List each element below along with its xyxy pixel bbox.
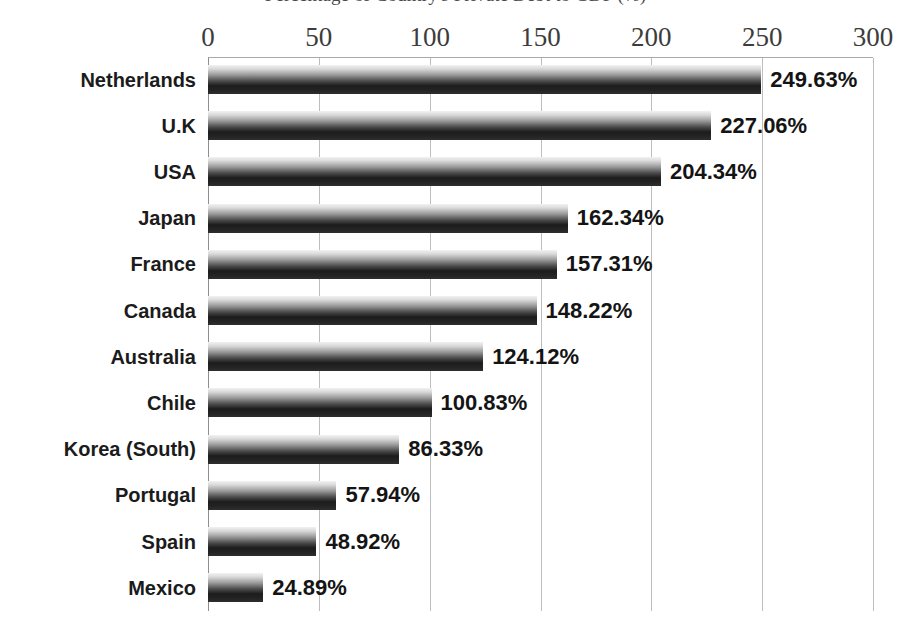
bar-row: 157.31% (208, 250, 873, 279)
bar-value-label: 48.92% (325, 530, 400, 554)
x-tick-label: 200 (631, 22, 672, 52)
x-tick-label: 250 (742, 22, 783, 52)
bar-row: 24.89% (208, 573, 873, 602)
bar-value-label: 57.94% (345, 483, 420, 507)
bar-netherlands (208, 65, 761, 94)
bar-row: 204.34% (208, 157, 873, 186)
bar-u-k (208, 111, 711, 140)
category-label-canada: Canada (0, 300, 196, 322)
category-label-mexico: Mexico (0, 577, 196, 599)
bar-chile (208, 388, 432, 417)
x-tick-label: 100 (409, 22, 450, 52)
bar-value-label: 227.06% (720, 114, 807, 138)
bar-row: 57.94% (208, 481, 873, 510)
bar-france (208, 250, 557, 279)
x-axis-tick-labels: 050100150200250300 (0, 22, 911, 54)
bar-usa (208, 157, 661, 186)
bar-japan (208, 204, 568, 233)
bar-portugal (208, 481, 336, 510)
bar-row: 48.92% (208, 527, 873, 556)
chart-title: Percentage of Country's Private Debt to … (0, 0, 911, 6)
category-label-australia: Australia (0, 346, 196, 368)
category-label-chile: Chile (0, 392, 196, 414)
bar-row: 86.33% (208, 435, 873, 464)
category-label-portugal: Portugal (0, 484, 196, 506)
bar-spain (208, 527, 316, 556)
bar-row: 227.06% (208, 111, 873, 140)
bar-row: 162.34% (208, 204, 873, 233)
bar-row: 124.12% (208, 342, 873, 371)
category-label-korea-south: Korea (South) (0, 438, 196, 460)
category-label-france: France (0, 253, 196, 275)
bar-canada (208, 296, 537, 325)
x-tick-label: 50 (305, 22, 332, 52)
category-label-spain: Spain (0, 531, 196, 553)
category-label-u-k: U.K (0, 115, 196, 137)
bar-value-label: 162.34% (577, 206, 664, 230)
category-label-netherlands: Netherlands (0, 69, 196, 91)
bar-value-label: 86.33% (408, 437, 483, 461)
x-tick-label: 150 (520, 22, 561, 52)
category-label-japan: Japan (0, 207, 196, 229)
bar-korea-south (208, 435, 399, 464)
bar-value-label: 249.63% (770, 68, 857, 92)
bar-value-label: 204.34% (670, 160, 757, 184)
bars-layer: 249.63%227.06%204.34%162.34%157.31%148.2… (208, 57, 911, 611)
x-tick-label: 0 (201, 22, 215, 52)
bar-row: 249.63% (208, 65, 873, 94)
bar-value-label: 148.22% (546, 299, 633, 323)
category-label-usa: USA (0, 161, 196, 183)
bar-australia (208, 342, 483, 371)
y-axis-category-labels: NetherlandsU.KUSAJapanFranceCanadaAustra… (0, 57, 196, 611)
bar-value-label: 124.12% (492, 345, 579, 369)
bar-row: 100.83% (208, 388, 873, 417)
bar-value-label: 100.83% (441, 391, 528, 415)
bar-mexico (208, 573, 263, 602)
bar-chart: Percentage of Country's Private Debt to … (0, 0, 911, 626)
bar-value-label: 157.31% (566, 252, 653, 276)
bar-row: 148.22% (208, 296, 873, 325)
bar-value-label: 24.89% (272, 576, 347, 600)
x-tick-label: 300 (853, 22, 894, 52)
